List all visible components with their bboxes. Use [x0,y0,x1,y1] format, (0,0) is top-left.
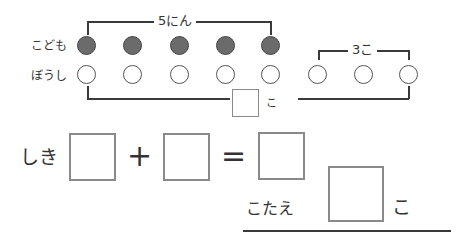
hat-circle [216,65,235,84]
hat-circle [354,65,373,84]
right-bracket-left-tick [318,50,320,60]
plus-sign: + [127,141,152,171]
hat-circle [399,65,418,84]
equation-operand-2-box[interactable] [163,133,210,181]
child-circle [77,36,96,55]
equation-result-box[interactable] [258,132,305,180]
answer-box[interactable] [328,166,384,222]
top-bracket-left-tick [87,21,89,35]
bottom-bracket-left-tick [87,86,89,99]
child-circle [123,36,142,55]
child-circle [261,36,280,55]
top-bracket-label: 5にん [154,14,196,28]
total-count-box[interactable] [232,89,259,117]
hat-circle [77,65,96,84]
row-label-boushi: ぼうし [31,69,67,83]
equals-sign: = [221,141,246,171]
bottom-bracket-horizontal-left [87,98,230,100]
bottom-bracket-horizontal-right [298,98,409,100]
row-label-kodomo: こども [31,39,67,53]
bottom-bracket-right-tick [408,86,410,99]
child-circle [216,36,235,55]
total-count-unit: こ [266,97,277,111]
child-circle [170,36,189,55]
hat-circle [123,65,142,84]
answer-unit: こ [392,196,411,218]
right-bracket-label: 3こ [348,43,377,57]
answer-label: こたえ [246,198,294,220]
hat-circle [170,65,189,84]
equation-label: しき [20,146,58,168]
right-bracket-right-tick [408,50,410,60]
hat-circle [308,65,327,84]
hat-circle [261,65,280,84]
top-bracket-right-tick [270,21,272,35]
equation-operand-1-box[interactable] [69,133,116,181]
answer-underline [243,230,451,232]
